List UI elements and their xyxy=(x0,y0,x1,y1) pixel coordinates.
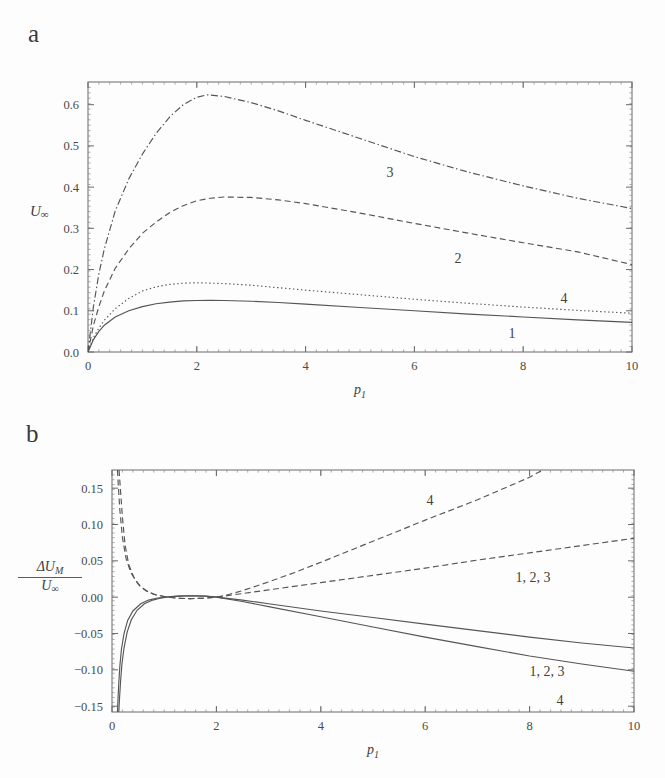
x-axis-title: p1 xyxy=(366,742,379,760)
curve-label: 1 xyxy=(509,326,516,341)
curve-4 xyxy=(88,283,632,352)
curve-label: 4 xyxy=(561,291,568,306)
panel-a: a U∞ 02468100.00.10.20.30.40.50.61234p1 xyxy=(0,0,665,400)
x-tick-label: 10 xyxy=(628,719,641,733)
x-tick-label: 0 xyxy=(85,359,91,373)
curve-2 xyxy=(88,197,632,352)
y-tick-label: −0.05 xyxy=(74,627,103,641)
x-tick-label: 2 xyxy=(194,359,200,373)
x-tick-label: 4 xyxy=(318,719,325,733)
y-tick-label: 0.3 xyxy=(63,222,79,236)
curve-3 xyxy=(88,95,632,352)
curve-1 xyxy=(88,300,632,352)
x-tick-label: 2 xyxy=(213,719,219,733)
y-tick-label: 0.2 xyxy=(63,263,79,277)
y-tick-label: 0.6 xyxy=(63,98,79,112)
curve-label: 2 xyxy=(455,251,462,266)
curve-label: 4 xyxy=(427,493,434,508)
y-tick-label: 0.0 xyxy=(63,346,79,360)
curve-123-upper xyxy=(117,470,634,599)
x-tick-label: 10 xyxy=(626,359,639,373)
figure-container: a U∞ 02468100.00.10.20.30.40.50.61234p1 … xyxy=(0,0,665,778)
panel-a-plot: 02468100.00.10.20.30.40.50.61234p1 xyxy=(0,0,665,400)
y-tick-label: 0.1 xyxy=(63,304,79,318)
curve-label: 3 xyxy=(387,165,394,180)
curve-4-upper xyxy=(119,470,543,599)
y-tick-label: −0.15 xyxy=(74,700,103,714)
curve-label: 1, 2, 3 xyxy=(516,570,551,585)
x-axis-title: p1 xyxy=(353,382,366,400)
y-tick-label: 0.00 xyxy=(81,591,103,605)
x-tick-label: 0 xyxy=(109,719,115,733)
y-tick-label: −0.10 xyxy=(74,663,103,677)
y-tick-label: 0.5 xyxy=(63,139,79,153)
panel-b: b ΔUM U∞ 02468100.150.100.050.00−0.05−0.… xyxy=(0,400,665,778)
x-tick-label: 4 xyxy=(302,359,309,373)
y-tick-label: 0.15 xyxy=(81,482,103,496)
x-tick-label: 8 xyxy=(520,359,526,373)
x-tick-label: 6 xyxy=(422,719,428,733)
panel-b-plot: 02468100.150.100.050.00−0.05−0.10−0.1541… xyxy=(0,400,665,778)
plot-frame xyxy=(88,82,632,352)
y-tick-label: 0.4 xyxy=(63,181,79,195)
y-tick-label: 0.10 xyxy=(81,518,103,532)
x-tick-label: 8 xyxy=(526,719,532,733)
x-tick-label: 6 xyxy=(411,359,417,373)
y-tick-label: 0.05 xyxy=(81,554,103,568)
curve-label: 4 xyxy=(557,693,564,708)
curve-label: 1, 2, 3 xyxy=(530,664,565,679)
